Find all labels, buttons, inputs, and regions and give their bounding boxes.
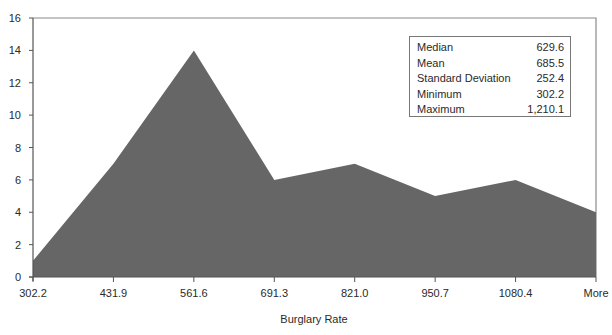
x-tick-label: 950.7	[421, 287, 449, 299]
x-tick-label: 1080.4	[499, 287, 533, 299]
stats-label: Mean	[417, 56, 445, 72]
y-axis: 0246810121416	[9, 12, 33, 283]
y-tick-label: 6	[15, 174, 21, 186]
stats-value: 629.6	[536, 40, 564, 56]
summary-statistics-box: Median 629.6 Mean 685.5 Standard Deviati…	[409, 36, 571, 117]
y-tick-label: 2	[15, 239, 21, 251]
stats-label: Standard Deviation	[417, 71, 511, 87]
stats-value: 302.2	[536, 87, 564, 103]
x-tick-label: 691.3	[261, 287, 289, 299]
y-tick-label: 12	[9, 77, 21, 89]
stats-row-minimum: Minimum 302.2	[417, 87, 564, 103]
x-axis-title: Burglary Rate	[280, 313, 347, 325]
stats-label: Maximum	[417, 102, 465, 118]
y-tick-label: 4	[15, 206, 21, 218]
stats-value: 252.4	[536, 71, 564, 87]
x-tick-label: 302.2	[19, 287, 47, 299]
y-tick-label: 16	[9, 12, 21, 24]
y-tick-label: 14	[9, 44, 21, 56]
stats-label: Minimum	[417, 87, 462, 103]
x-tick-label: 821.0	[341, 287, 369, 299]
stats-value: 685.5	[536, 56, 564, 72]
y-tick-label: 0	[15, 271, 21, 283]
y-tick-label: 8	[15, 142, 21, 154]
stats-row-mean: Mean 685.5	[417, 56, 564, 72]
x-tick-label: 431.9	[100, 287, 128, 299]
stats-row-maximum: Maximum 1,210.1	[417, 102, 564, 118]
x-axis: 302.2431.9561.6691.3821.0950.71080.4More	[19, 277, 608, 299]
stats-value: 1,210.1	[527, 102, 564, 118]
stats-label: Median	[417, 40, 453, 56]
stats-row-standard-deviation: Standard Deviation 252.4	[417, 71, 564, 87]
x-tick-label: More	[583, 287, 608, 299]
x-tick-label: 561.6	[180, 287, 208, 299]
y-tick-label: 10	[9, 109, 21, 121]
stats-row-median: Median 629.6	[417, 40, 564, 56]
